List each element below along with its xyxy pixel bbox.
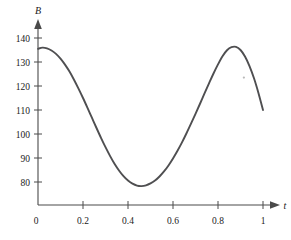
x-tick-label-0_2: 0.2 — [77, 216, 89, 226]
x-tick-label-0: 0 — [34, 216, 39, 226]
y-axis-title: B — [35, 5, 41, 16]
y-axis-arrowhead — [34, 19, 42, 29]
y-tick-label-110: 110 — [16, 106, 30, 116]
x-tick-label-0_6: 0.6 — [167, 216, 179, 226]
x-axis-arrowhead — [270, 201, 280, 208]
y-tick-label-120: 120 — [16, 82, 31, 92]
y-tick-label-90: 90 — [21, 154, 31, 164]
data-curve-B — [38, 47, 263, 186]
x-axis-title: t — [284, 200, 287, 211]
y-tick-label-130: 130 — [16, 58, 31, 68]
chart-figure: 80 90 100 110 120 130 140 0 0.2 0.4 0.6 … — [0, 0, 291, 240]
x-tick-label-0_4: 0.4 — [122, 216, 134, 226]
y-tick-label-140: 140 — [16, 34, 31, 44]
scan-speck — [243, 77, 245, 79]
x-tick-label-0_8: 0.8 — [212, 216, 224, 226]
chart-plot-svg: 80 90 100 110 120 130 140 0 0.2 0.4 0.6 … — [0, 0, 291, 240]
x-axis — [38, 201, 280, 208]
y-axis-tick-labels: 80 90 100 110 120 130 140 — [16, 34, 31, 188]
y-axis — [34, 19, 42, 205]
x-axis-tick-labels: 0 0.2 0.4 0.6 0.8 1 — [34, 216, 266, 226]
y-tick-label-100: 100 — [16, 130, 31, 140]
y-tick-label-80: 80 — [21, 178, 31, 188]
x-tick-label-1: 1 — [261, 216, 266, 226]
